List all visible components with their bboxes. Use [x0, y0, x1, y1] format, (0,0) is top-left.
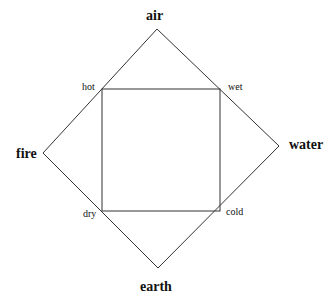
element-fire: fire: [16, 146, 37, 162]
element-air: air: [146, 8, 163, 24]
elements-diagram: air fire water earth hot wet dry cold: [0, 0, 331, 303]
diagram-lines: [0, 0, 331, 303]
element-earth: earth: [140, 279, 172, 295]
quality-cold: cold: [226, 206, 243, 217]
quality-dry: dry: [83, 208, 96, 219]
quality-hot: hot: [82, 81, 95, 92]
inner-square: [102, 89, 220, 211]
quality-wet: wet: [228, 81, 242, 92]
element-water: water: [289, 137, 323, 153]
outer-diamond: [43, 29, 279, 268]
